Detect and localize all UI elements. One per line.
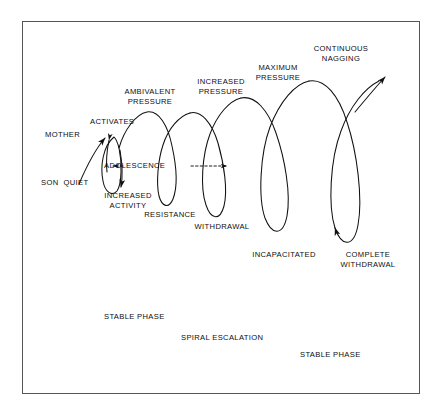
label-maximum-pressure: MAXIMUM PRESSURE xyxy=(245,63,311,82)
label-continuous-nagging: CONTINUOUS NAGGING xyxy=(303,44,379,63)
label-stable-phase-left: STABLE PHASE xyxy=(104,312,165,322)
label-adolescence: ADOLESCENCE xyxy=(104,161,165,171)
label-resistance: RESISTANCE xyxy=(139,210,201,220)
label-increased-activity: INCREASED ACTIVITY xyxy=(95,191,161,210)
label-mother: MOTHER xyxy=(45,130,80,140)
label-activates: ACTIVATES xyxy=(90,117,134,127)
label-incapacitated: INCAPACITATED xyxy=(246,250,322,260)
label-stable-phase-right: STABLE PHASE xyxy=(300,350,361,360)
label-withdrawal: WITHDRAWAL xyxy=(186,222,258,232)
label-spiral-escalation: SPIRAL ESCALATION xyxy=(181,333,263,343)
label-son-quiet: SON QUIET xyxy=(41,178,88,188)
spiral-escalation-figure: MOTHER SON QUIET ACTIVATES INCREASED ACT… xyxy=(0,0,441,416)
label-ambivalent-pressure: AMBIVALENT PRESSURE xyxy=(113,87,187,106)
label-complete-withdrawal: COMPLETE WITHDRAWAL xyxy=(330,250,406,269)
